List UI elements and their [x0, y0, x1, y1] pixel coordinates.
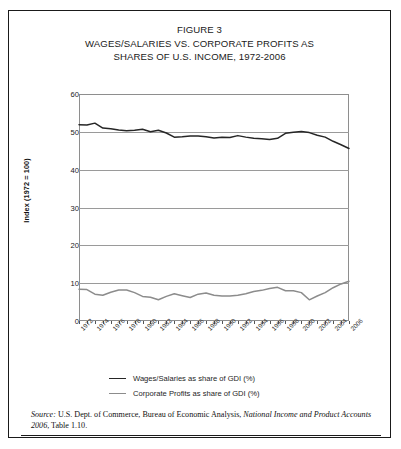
figure-panel: FIGURE 3 WAGES/SALARIES VS. CORPORATE PR…	[8, 10, 391, 438]
source-note: Source: U.S. Dept. of Commerce, Bureau o…	[31, 409, 381, 431]
source-text-part2: , Table 1.10.	[47, 421, 87, 430]
x-axis-tickmark	[349, 321, 350, 324]
series-line	[79, 281, 349, 300]
series-line	[79, 123, 349, 148]
legend-label: Corporate Profits as share of GDI (%)	[133, 389, 260, 398]
legend-swatch-icon	[109, 378, 126, 379]
legend-item: Wages/Salaries as share of GDI (%)	[109, 371, 359, 386]
source-prefix: Source:	[31, 410, 56, 419]
chart-canvas: Index (1972 = 100) 0102030405060 1972197…	[9, 11, 392, 439]
source-text-part1: U.S. Dept. of Commerce, Bureau of Econom…	[56, 410, 243, 419]
legend-swatch-icon	[109, 393, 126, 394]
legend-item: Corporate Profits as share of GDI (%)	[109, 386, 359, 401]
x-axis-labels: 1972197419761978198019821984198619881990…	[79, 324, 349, 358]
chart-legend: Wages/Salaries as share of GDI (%)Corpor…	[109, 371, 359, 401]
horizontal-rule	[21, 435, 381, 436]
legend-label: Wages/Salaries as share of GDI (%)	[133, 374, 255, 383]
